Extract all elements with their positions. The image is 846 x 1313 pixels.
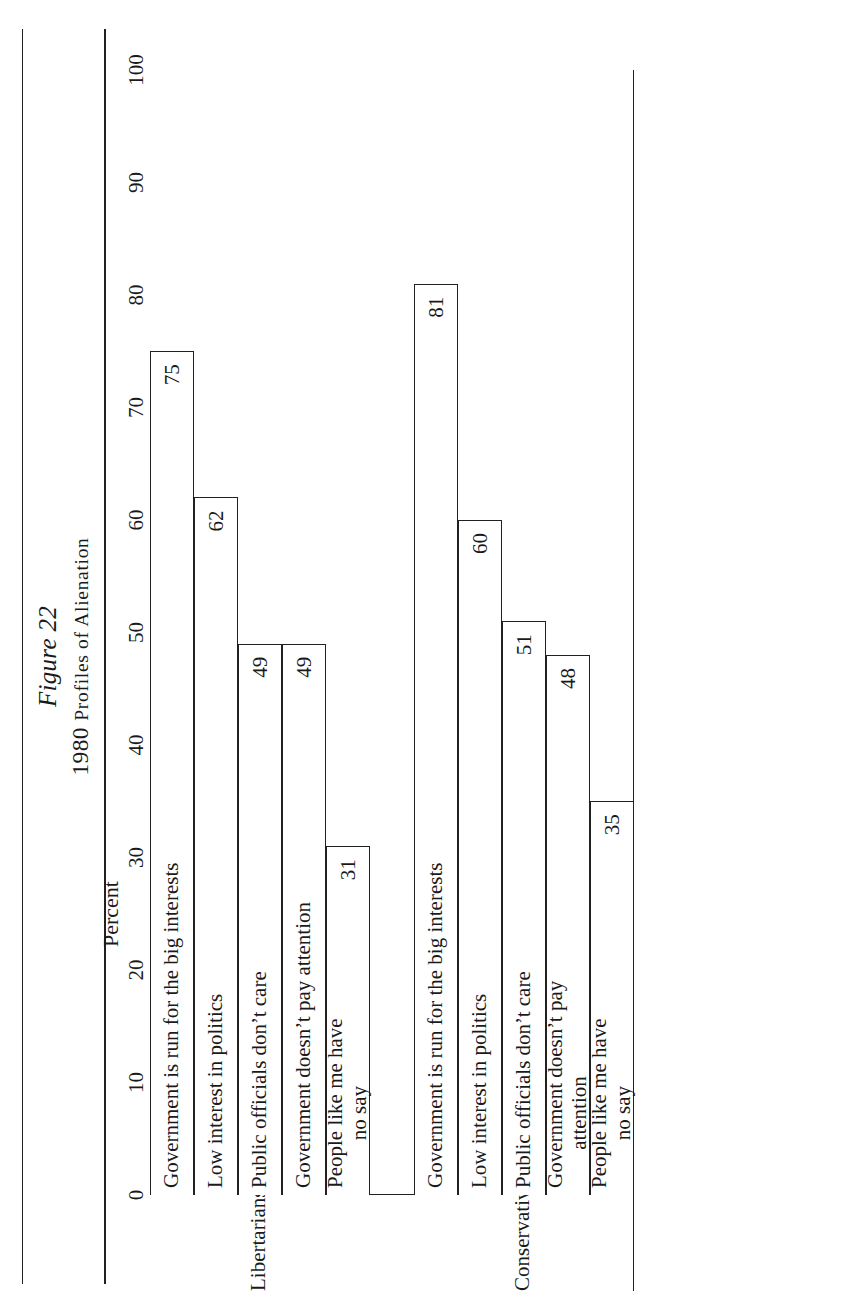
x-tick-90: 90 (124, 172, 149, 193)
rotated-page-wrapper: Figure 22 1980 Profiles of Alienation Pe… (0, 0, 846, 1313)
bar-category-label: Government is run for the big interests (160, 863, 184, 1188)
bar-row[interactable]: Government is run for the big interests7… (150, 70, 194, 1195)
bar-row[interactable]: Government is run for the big interests8… (414, 70, 458, 1195)
bar-group-libertarians: LibertariansGovernment is run for the bi… (150, 70, 370, 1195)
chart-plot-area: Percent 0102030405060708090100 Libertari… (150, 70, 634, 1195)
bar-row[interactable]: Government doesn’t payattention48 (546, 70, 590, 1195)
bar-category-label: People like me haveno say (588, 938, 635, 1188)
x-tick-100: 100 (124, 54, 149, 86)
bar-row[interactable]: People like me haveno say31 (326, 70, 370, 1195)
bar-value-label: 35 (600, 814, 625, 835)
figure-title-block: Figure 22 1980 Profiles of Alienation (22, 0, 106, 1313)
bar-category-label: Public officials don’t care (512, 971, 536, 1188)
x-tick-0: 0 (124, 1190, 149, 1201)
bar-category-label: Government doesn’t pay attention (292, 902, 316, 1188)
x-tick-30: 30 (124, 847, 149, 868)
figure-title-year: 1980 (67, 721, 93, 776)
bar-category-label: Low interest in politics (468, 994, 492, 1188)
x-tick-70: 70 (124, 397, 149, 418)
x-tick-60: 60 (124, 510, 149, 531)
bar-value-label: 81 (424, 297, 449, 318)
x-tick-80: 80 (124, 285, 149, 306)
bar-value-label: 62 (204, 511, 229, 532)
x-tick-20: 20 (124, 960, 149, 981)
x-tick-10: 10 (124, 1072, 149, 1093)
bar-value-label: 49 (248, 657, 273, 678)
bar-row[interactable]: Low interest in politics62 (194, 70, 238, 1195)
bar-group-conservatives: ConservativesGovernment is run for the b… (414, 70, 634, 1195)
x-axis-label: Percent (98, 881, 124, 947)
page-title: 1980 Profiles of Alienation (66, 0, 94, 1313)
x-tick-50: 50 (124, 622, 149, 643)
bar-category-line2: no say (348, 1038, 372, 1188)
bar-row[interactable]: Government doesn’t pay attention49 (282, 70, 326, 1195)
bar-category-label: Public officials don’t care (248, 971, 272, 1188)
x-axis-tick-labels: 0102030405060708090100 (124, 70, 148, 1195)
bar-value-label: 48 (556, 668, 581, 689)
bar-category-line2: no say (612, 1038, 636, 1188)
group-label: Conservatives (510, 1199, 535, 1291)
bar-row[interactable]: People like me haveno say35 (590, 70, 634, 1195)
figure-container: Figure 22 1980 Profiles of Alienation Pe… (0, 0, 846, 1313)
bar-value-label: 75 (160, 364, 185, 385)
bar-category-label: People like me haveno say (324, 938, 371, 1188)
bar-value-label: 31 (336, 859, 361, 880)
bar-row[interactable]: Low interest in politics60 (458, 70, 502, 1195)
bar-value-label: 60 (468, 533, 493, 554)
bar-category-label: Low interest in politics (204, 994, 228, 1188)
bar-value-label: 49 (292, 657, 317, 678)
group-label: Libertarians (246, 1199, 271, 1291)
bar-category-line1: People like me have (323, 1018, 347, 1188)
bar-value-label: 51 (512, 634, 537, 655)
figure-number: Figure 22 (33, 0, 63, 1313)
figure-title-caps: Profiles of Alienation (71, 537, 92, 720)
bar-category-label: Government is run for the big interests (424, 863, 448, 1188)
x-tick-40: 40 (124, 735, 149, 756)
bar-category-label: Government doesn’t payattention (544, 938, 591, 1188)
bar-category-line1: Government doesn’t pay (543, 981, 567, 1188)
bar-row[interactable]: Public officials don’t care51 (502, 70, 546, 1195)
bar-category-line1: People like me have (587, 1018, 611, 1188)
title-rule-top (22, 29, 23, 1284)
title-rule-bottom (104, 29, 106, 1284)
bar-row[interactable]: Public officials don’t care49 (238, 70, 282, 1195)
